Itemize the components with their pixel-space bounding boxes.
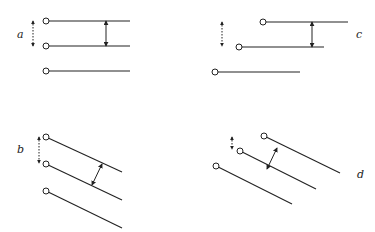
pin-head-circle <box>43 18 49 24</box>
pin-head-circle <box>43 68 49 74</box>
pin-head-circle <box>212 69 218 75</box>
panel-label-a: a <box>17 28 24 41</box>
pin-head-circle <box>43 161 49 167</box>
pin-line-2 <box>49 165 122 200</box>
pin-head-circle <box>213 163 219 169</box>
pin-head-circle <box>43 188 49 194</box>
pin-head-circle <box>260 19 266 25</box>
pin-head-circle <box>261 133 267 139</box>
panel-label-d: d <box>357 168 364 181</box>
panel-c <box>212 19 348 75</box>
pin-line-2 <box>243 152 316 189</box>
pin-head-circle <box>43 43 49 49</box>
pin-line-1 <box>49 138 122 172</box>
pin-head-circle <box>237 148 243 154</box>
pin-line-3 <box>219 167 292 204</box>
pin-head-circle <box>236 44 242 50</box>
panel-d <box>213 133 340 204</box>
pin-head-circle <box>43 134 49 140</box>
panel-label-c: c <box>356 28 362 41</box>
spacing-double-arrow-icon <box>92 164 102 185</box>
panel-label-b: b <box>17 143 24 156</box>
panel-a <box>33 18 130 74</box>
pin-line-3 <box>49 192 122 228</box>
diagram-canvas: a c b d <box>0 0 375 232</box>
pin-line-1 <box>267 137 340 173</box>
spacing-double-arrow-icon <box>267 148 277 169</box>
panel-b <box>39 134 122 228</box>
